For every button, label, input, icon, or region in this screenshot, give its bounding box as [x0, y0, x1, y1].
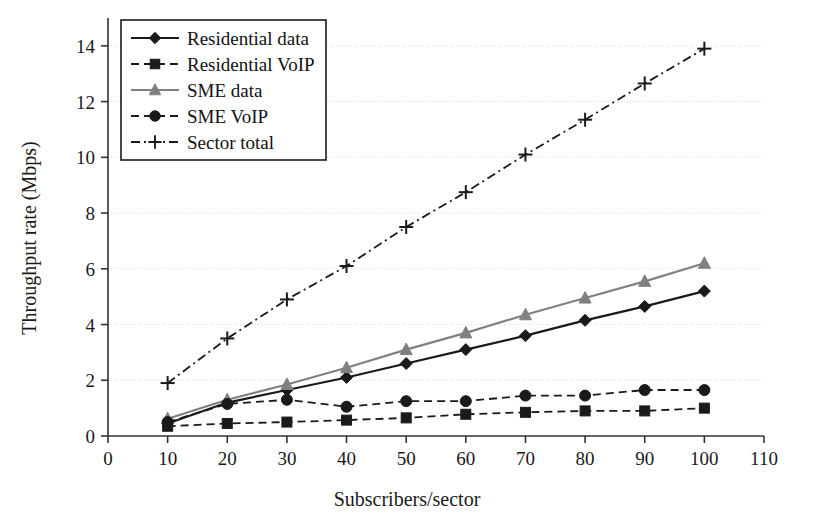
- legend-label: SME VoIP: [187, 106, 268, 127]
- throughput-chart: 0102030405060708090100110 02468101214 Re…: [0, 0, 814, 522]
- y-tick-label: 10: [76, 147, 95, 168]
- marker-square: [461, 409, 471, 419]
- y-tick-label: 4: [86, 315, 96, 336]
- marker-square: [640, 406, 650, 416]
- marker-circle: [150, 111, 160, 121]
- marker-square: [699, 403, 709, 413]
- marker-circle: [580, 390, 591, 401]
- y-tick-label: 12: [76, 92, 95, 113]
- legend: Residential dataResidential VoIPSME data…: [121, 20, 326, 160]
- marker-circle: [341, 401, 352, 412]
- x-tick-label: 40: [337, 448, 356, 469]
- legend-label: Residential VoIP: [187, 54, 315, 75]
- x-tick-label: 10: [158, 448, 177, 469]
- marker-circle: [639, 385, 650, 396]
- y-tick-label: 6: [86, 259, 96, 280]
- y-axis-title: Throughput rate (Mbps): [18, 141, 41, 334]
- legend-label: Sector total: [187, 132, 274, 153]
- y-tick-label: 0: [86, 426, 96, 447]
- marker-square: [401, 413, 411, 423]
- marker-circle: [460, 396, 471, 407]
- x-tick-label: 100: [690, 448, 719, 469]
- marker-square: [282, 417, 292, 427]
- y-tick-label: 14: [76, 36, 96, 57]
- marker-circle: [520, 390, 531, 401]
- marker-circle: [401, 396, 412, 407]
- x-tick-label: 90: [635, 448, 654, 469]
- marker-square: [222, 418, 232, 428]
- y-tick-label: 2: [86, 370, 96, 391]
- marker-square: [520, 407, 530, 417]
- x-tick-label: 0: [103, 448, 113, 469]
- marker-circle: [699, 385, 710, 396]
- x-tick-label: 20: [218, 448, 237, 469]
- x-tick-label: 30: [277, 448, 296, 469]
- x-tick-label: 50: [397, 448, 416, 469]
- x-axis-title: Subscribers/sector: [334, 488, 481, 510]
- x-tick-label: 70: [516, 448, 535, 469]
- legend-label: Residential data: [187, 28, 309, 49]
- x-tick-label: 110: [750, 448, 778, 469]
- chart-canvas: 0102030405060708090100110 02468101214 Re…: [0, 0, 814, 522]
- marker-circle: [162, 417, 173, 428]
- marker-square: [150, 59, 160, 69]
- x-tick-label: 60: [456, 448, 475, 469]
- marker-circle: [281, 394, 292, 405]
- marker-square: [342, 415, 352, 425]
- y-tick-label: 8: [86, 203, 96, 224]
- x-tick-label: 80: [576, 448, 595, 469]
- legend-label: SME data: [187, 80, 263, 101]
- marker-square: [580, 406, 590, 416]
- marker-circle: [222, 398, 233, 409]
